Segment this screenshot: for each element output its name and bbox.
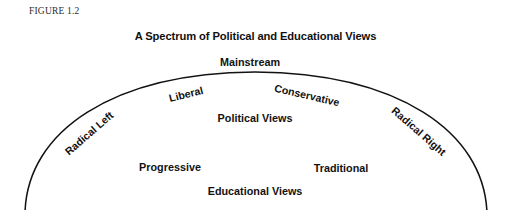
label-mainstream: Mainstream <box>220 56 280 68</box>
figure-container: FIGURE 1.2 A Spectrum of Political and E… <box>0 0 511 210</box>
label-political-views: Political Views <box>218 112 293 124</box>
label-educational-views: Educational Views <box>208 185 303 197</box>
label-traditional: Traditional <box>314 162 369 174</box>
label-progressive: Progressive <box>139 161 201 173</box>
spectrum-arc-svg <box>0 0 511 210</box>
